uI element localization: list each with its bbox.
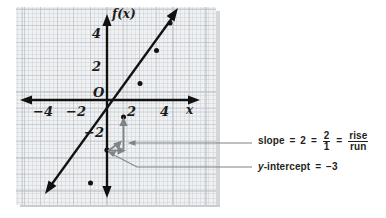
x-axis-name-label: x <box>186 104 193 116</box>
figure-root: −4 −2 2 4 4 2 −2 O f(x) x slope = 2 = 2 … <box>0 0 386 218</box>
x-tick-label-2: 2 <box>127 105 136 118</box>
y-intercept-annotation-word: -intercept <box>264 161 311 172</box>
y-intercept-annotation-value: −3 <box>326 161 338 172</box>
slope-annotation-equals-3: = <box>336 135 342 146</box>
graph-panel-shadow-right <box>216 11 220 205</box>
slope-annotation-fraction-rise-over-run: rise run <box>348 131 368 152</box>
slope-annotation: slope = 2 = 2 1 = rise run <box>258 131 369 152</box>
x-tick-label-minus4: −4 <box>33 105 53 118</box>
y-tick-label-4: 4 <box>92 27 101 40</box>
origin-label: O <box>93 86 104 99</box>
y-tick-label-2: 2 <box>92 60 101 73</box>
y-intercept-annotation: y-intercept = −3 <box>258 162 338 173</box>
slope-annotation-equals-1: = <box>290 135 296 146</box>
x-tick-label-4: 4 <box>160 105 169 118</box>
x-tick-label-minus2: −2 <box>66 105 86 118</box>
y-intercept-annotation-equals: = <box>315 161 321 172</box>
slope-fraction-denominator: 1 <box>323 142 331 152</box>
slope-annotation-equals-2: = <box>311 135 317 146</box>
y-tick-label-minus2: −2 <box>84 126 104 139</box>
slope-annotation-value: 2 <box>300 135 306 146</box>
slope-annotation-fraction-two-over-one: 2 1 <box>323 131 331 152</box>
rise-over-run-denominator: run <box>348 142 368 152</box>
y-axis-name-label: f(x) <box>112 8 136 20</box>
slope-annotation-lead: slope <box>258 135 285 146</box>
